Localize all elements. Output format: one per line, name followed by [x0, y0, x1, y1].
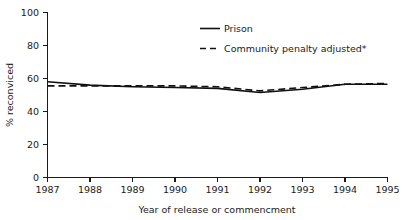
x-tick-label: 1987 — [35, 184, 59, 195]
line-chart: 100 80 60 40 20 0 1987 1988 1989 1990 19… — [0, 0, 408, 220]
x-tick-label: 1991 — [205, 184, 229, 195]
y-axis-title: % reconviced — [4, 63, 15, 127]
legend-label-prison: Prison — [224, 23, 253, 34]
x-axis-tick-labels: 1987 1988 1989 1990 1991 1992 1993 1994 … — [35, 184, 399, 195]
y-tick-label: 80 — [27, 40, 39, 51]
legend-label-community-penalty-adjusted: Community penalty adjusted* — [224, 43, 367, 54]
y-tick-label: 0 — [33, 172, 39, 183]
x-axis-title: Year of release or commencment — [137, 204, 295, 215]
y-tick-label: 40 — [27, 106, 39, 117]
chart-figure: 100 80 60 40 20 0 1987 1988 1989 1990 19… — [0, 0, 408, 220]
x-tick-label: 1995 — [375, 184, 399, 195]
x-tick-label: 1992 — [248, 184, 272, 195]
x-tick-label: 1988 — [78, 184, 102, 195]
x-tick-label: 1990 — [163, 184, 187, 195]
x-tick-label: 1994 — [333, 184, 357, 195]
y-tick-label: 100 — [21, 7, 39, 18]
x-tick-label: 1989 — [120, 184, 144, 195]
y-tick-label: 60 — [27, 73, 39, 84]
x-tick-label: 1993 — [290, 184, 314, 195]
y-tick-label: 20 — [27, 139, 39, 150]
